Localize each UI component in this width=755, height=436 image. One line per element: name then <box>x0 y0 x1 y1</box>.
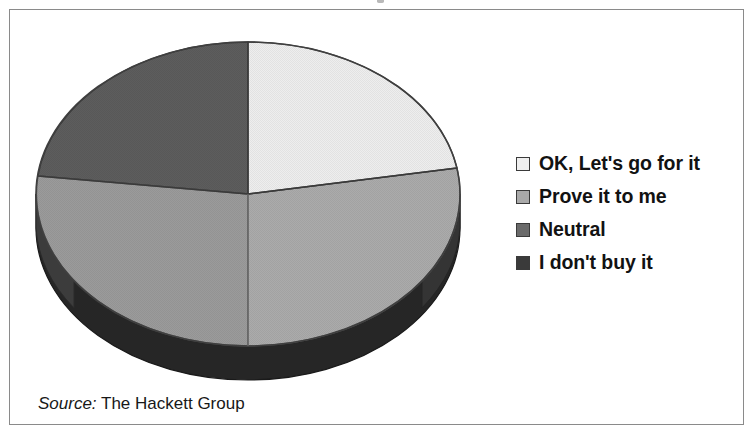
figure-container: OK, Let's go for it Prove it to me Neutr… <box>0 0 755 436</box>
legend-label-ok-lets-go-for-it: OK, Let's go for it <box>539 154 700 174</box>
chart-legend: OK, Let's go for it Prove it to me Neutr… <box>516 147 748 279</box>
source-value: The Hackett Group <box>97 394 245 413</box>
chart-frame-border: OK, Let's go for it Prove it to me Neutr… <box>9 9 744 425</box>
legend-label-prove-it-to-me: Prove it to me <box>539 187 667 207</box>
pie-chart-plot-area <box>20 18 500 388</box>
legend-item-i-dont-buy-it[interactable]: I don't buy it <box>516 246 748 279</box>
legend-swatch-prove-it-to-me <box>516 190 530 204</box>
legend-item-ok-lets-go-for-it[interactable]: OK, Let's go for it <box>516 147 748 180</box>
legend-swatch-neutral <box>516 223 530 237</box>
legend-label-i-dont-buy-it: I don't buy it <box>539 253 653 273</box>
legend-item-neutral[interactable]: Neutral <box>516 213 748 246</box>
legend-swatch-i-dont-buy-it <box>516 256 530 270</box>
legend-label-neutral: Neutral <box>539 220 605 240</box>
legend-swatch-ok-lets-go-for-it <box>516 157 530 171</box>
legend-item-prove-it-to-me[interactable]: Prove it to me <box>516 180 748 213</box>
source-label: Source: <box>38 394 97 413</box>
source-note: Source: The Hackett Group <box>38 395 245 412</box>
pie-chart-svg <box>20 18 500 388</box>
cropped-title-descender-artifact <box>377 0 384 3</box>
